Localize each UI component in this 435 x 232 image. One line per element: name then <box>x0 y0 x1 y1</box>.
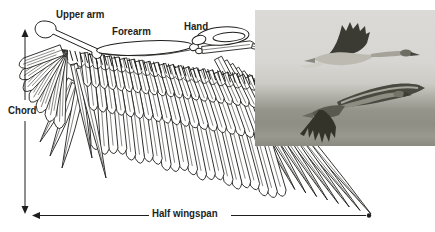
lower-goose-head <box>394 91 405 97</box>
geese-photo-inset <box>255 10 435 146</box>
half-wingspan-label: Half wingspan <box>152 207 218 219</box>
upper-arm-label: Upper arm <box>56 8 104 20</box>
lower-goose <box>300 84 425 144</box>
hand-label: Hand <box>184 20 208 32</box>
upper-goose-bill <box>410 52 420 56</box>
chord-label: Chord <box>8 104 37 116</box>
forearm-label: Forearm <box>112 25 151 37</box>
geese-silhouettes <box>255 10 435 146</box>
lower-goose-tail <box>302 112 313 118</box>
wing-diagram-figure: Upper arm Forearm Hand Chord Half wingsp… <box>0 0 435 232</box>
upper-goose <box>299 22 420 68</box>
shoulder-feather-cluster <box>19 45 68 129</box>
upper-goose-tail <box>304 58 315 63</box>
upper-goose-raised-wing <box>329 22 370 56</box>
